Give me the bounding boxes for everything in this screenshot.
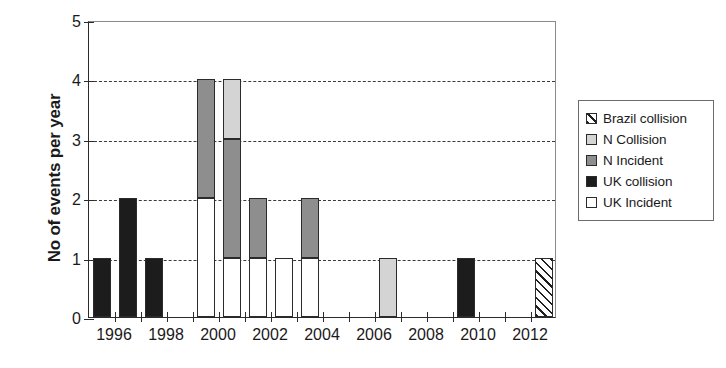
bar-segment <box>457 258 475 317</box>
legend-swatch-icon <box>586 176 597 187</box>
x-tick-mark-2006 <box>375 312 376 322</box>
y-tick-mark-0 <box>84 319 94 320</box>
x-tick-label-1996: 1996 <box>96 326 132 344</box>
bar-stack <box>145 258 163 317</box>
bar-stack <box>223 79 241 317</box>
x-tick-label-2004: 2004 <box>304 326 340 344</box>
x-tick-label-2002: 2002 <box>252 326 288 344</box>
x-tick-mark-2005 <box>349 312 350 322</box>
bar-chart: No of events per year 012345 19961998200… <box>0 0 726 368</box>
x-tick-mark-2004 <box>323 312 324 322</box>
x-tick-label-2012: 2012 <box>512 326 548 344</box>
legend-item: Brazil collision <box>586 108 707 129</box>
y-tick-label-1: 1 <box>72 251 81 269</box>
legend-label: N Incident <box>603 153 663 168</box>
bar-stack <box>301 198 319 317</box>
bar-segment <box>249 258 267 317</box>
gridline-4 <box>89 81 555 82</box>
bar-stack <box>457 258 475 317</box>
x-tick-mark-2001 <box>245 312 246 322</box>
legend-item: UK Incident <box>586 192 707 213</box>
x-tick-label-2000: 2000 <box>200 326 236 344</box>
legend-swatch-icon <box>586 113 597 124</box>
bar-segment <box>301 258 319 317</box>
y-tick-mark-5 <box>84 22 94 23</box>
x-tick-label-2008: 2008 <box>408 326 444 344</box>
bar-segment <box>223 79 241 138</box>
legend-label: UK Incident <box>603 195 672 210</box>
y-tick-label-5: 5 <box>72 13 81 31</box>
bar-segment <box>535 258 553 317</box>
bar-segment <box>379 258 397 317</box>
legend-item: UK collision <box>586 171 707 192</box>
y-tick-mark-4 <box>84 81 94 82</box>
bar-segment <box>249 198 267 257</box>
x-tick-mark-2011 <box>505 312 506 322</box>
legend-item: N Collision <box>586 129 707 150</box>
gridline-3 <box>89 141 555 142</box>
bar-segment <box>301 198 319 257</box>
x-tick-mark-2012 <box>531 312 532 322</box>
x-tick-mark-2010 <box>479 312 480 322</box>
x-tick-mark-1998 <box>167 312 168 322</box>
bar-segment <box>223 139 241 258</box>
x-tick-mark-2002 <box>271 312 272 322</box>
bar-segment <box>275 258 293 317</box>
legend-item: N Incident <box>586 150 707 171</box>
chart-legend: Brazil collisionN CollisionN IncidentUK … <box>578 100 714 221</box>
y-tick-label-3: 3 <box>72 132 81 150</box>
legend-swatch-icon <box>586 134 597 145</box>
bar-segment <box>223 258 241 317</box>
y-tick-mark-3 <box>84 141 94 142</box>
x-tick-mark-2009 <box>453 312 454 322</box>
x-tick-mark-2003 <box>297 312 298 322</box>
x-tick-mark-1996 <box>115 312 116 322</box>
plot-area: 012345 <box>88 21 556 318</box>
bar-segment <box>197 198 215 317</box>
bar-stack <box>379 258 397 317</box>
legend-label: Brazil collision <box>603 111 687 126</box>
y-tick-label-4: 4 <box>72 72 81 90</box>
bar-stack <box>93 258 111 317</box>
x-tick-mark-1999 <box>193 312 194 322</box>
x-tick-mark-2008 <box>427 312 428 322</box>
y-axis-title: No of events per year <box>45 53 65 303</box>
bar-stack <box>275 258 293 317</box>
x-tick-label-2010: 2010 <box>460 326 496 344</box>
legend-label: UK collision <box>603 174 672 189</box>
legend-label: N Collision <box>603 132 666 147</box>
bar-stack <box>249 198 267 317</box>
legend-swatch-icon <box>586 155 597 166</box>
legend-swatch-icon <box>586 197 597 208</box>
y-tick-mark-2 <box>84 200 94 201</box>
gridline-2 <box>89 200 555 201</box>
x-tick-label-1998: 1998 <box>148 326 184 344</box>
bar-stack <box>535 258 553 317</box>
bar-segment <box>197 79 215 198</box>
bar-segment <box>145 258 163 317</box>
y-tick-label-2: 2 <box>72 191 81 209</box>
bar-segment <box>119 198 137 317</box>
x-tick-label-2006: 2006 <box>356 326 392 344</box>
bar-stack <box>119 198 137 317</box>
x-tick-mark-1997 <box>141 312 142 322</box>
bar-segment <box>93 258 111 317</box>
x-tick-mark-2000 <box>219 312 220 322</box>
x-tick-mark-2007 <box>401 312 402 322</box>
y-tick-label-0: 0 <box>72 310 81 328</box>
bar-stack <box>197 79 215 317</box>
